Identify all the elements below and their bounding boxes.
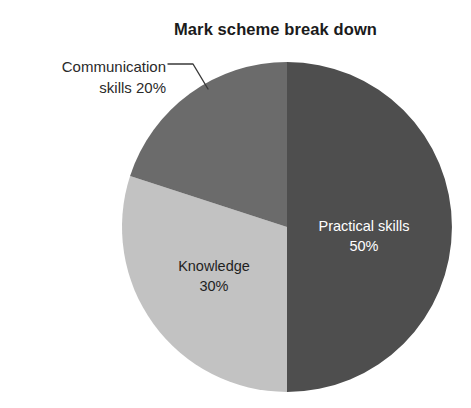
- slice-label-practical-skills: Practical skills 50%: [293, 216, 435, 256]
- slice-label-knowledge: Knowledge 30%: [148, 256, 280, 296]
- slice-label-practical-line1: Practical skills: [318, 218, 409, 234]
- pie-chart-figure: Mark scheme break down Communication ski…: [0, 0, 471, 408]
- slice-label-practical-line2: 50%: [293, 236, 435, 256]
- slice-label-communication-skills: Communication skills 20%: [4, 56, 166, 98]
- slice-label-communication-line2: skills 20%: [4, 77, 166, 98]
- slice-label-communication-line1: Communication: [62, 58, 166, 75]
- slice-label-knowledge-line2: 30%: [148, 276, 280, 296]
- slice-label-knowledge-line1: Knowledge: [178, 258, 250, 274]
